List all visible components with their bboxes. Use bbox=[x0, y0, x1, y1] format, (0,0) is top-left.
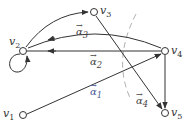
label-v4: v4 bbox=[171, 45, 182, 59]
node-v2[interactable] bbox=[20, 48, 27, 55]
label-alpha1: →α1 bbox=[90, 87, 102, 99]
label-v5: v5 bbox=[171, 107, 182, 121]
label-v3: v3 bbox=[100, 5, 111, 19]
edge-v4-v2-curved bbox=[28, 34, 161, 48]
label-alpha3: →α3 bbox=[76, 27, 88, 39]
label-v2: v2 bbox=[9, 36, 20, 50]
node-v4[interactable] bbox=[162, 48, 169, 55]
label-alpha2: →α2 bbox=[90, 57, 102, 69]
node-v3[interactable] bbox=[91, 9, 98, 16]
label-v1: v1 bbox=[3, 108, 14, 122]
self-loop-v2 bbox=[10, 54, 28, 72]
node-v1[interactable] bbox=[20, 112, 27, 119]
node-v5[interactable] bbox=[162, 110, 169, 117]
label-alpha4: →α4 bbox=[136, 96, 148, 108]
